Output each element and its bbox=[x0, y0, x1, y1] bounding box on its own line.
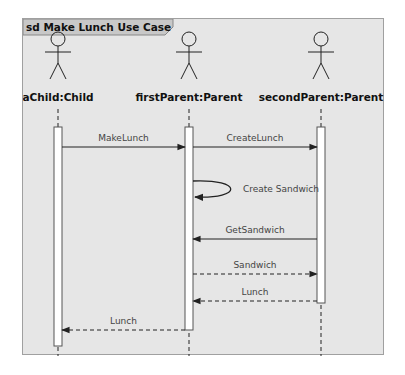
message-makelunch: MakeLunch bbox=[62, 133, 185, 147]
message-lunch: Lunch bbox=[193, 287, 317, 301]
message-label: CreateLunch bbox=[227, 133, 284, 143]
activation-bar bbox=[185, 127, 193, 330]
frame-title: sd Make Lunch Use Case bbox=[26, 21, 171, 33]
frame-title-tab: sd Make Lunch Use Case bbox=[23, 19, 173, 35]
message-sandwich: Sandwich bbox=[193, 260, 317, 274]
message-label: Sandwich bbox=[233, 260, 276, 270]
actor-icon bbox=[308, 32, 334, 79]
sequence-diagram-frame: sd Make Lunch Use Case aChild:Childfirst… bbox=[22, 18, 384, 355]
actor-icon bbox=[45, 32, 71, 79]
lifeline-child: aChild:Child bbox=[23, 32, 94, 356]
message-create-sandwich: Create Sandwich bbox=[193, 181, 319, 197]
message-lunch: Lunch bbox=[62, 316, 185, 330]
message-getsandwich: GetSandwich bbox=[193, 225, 317, 239]
message-label: GetSandwich bbox=[225, 225, 284, 235]
actor-icon bbox=[176, 32, 202, 79]
lifeline-second: secondParent:Parent bbox=[259, 32, 384, 356]
message-label: Lunch bbox=[242, 287, 269, 297]
message-createlunch: CreateLunch bbox=[193, 133, 317, 147]
message-label: Lunch bbox=[110, 316, 137, 326]
activation-bar bbox=[317, 127, 325, 303]
lifeline-name: secondParent:Parent bbox=[259, 91, 384, 103]
lifeline-name: firstParent:Parent bbox=[135, 91, 242, 103]
diagram-canvas: sd Make Lunch Use Case aChild:Childfirst… bbox=[23, 19, 385, 356]
message-label: Create Sandwich bbox=[243, 184, 319, 194]
activation-bar bbox=[54, 127, 62, 346]
lifeline-name: aChild:Child bbox=[23, 91, 94, 103]
message-label: MakeLunch bbox=[98, 133, 149, 143]
